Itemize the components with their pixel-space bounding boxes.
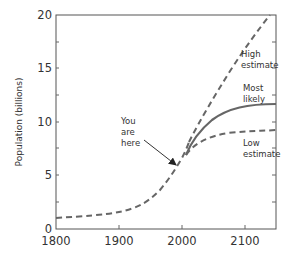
y-tick-5: 5: [45, 168, 52, 182]
svg-text:estimate: estimate: [243, 149, 280, 159]
x-tick-labels: 1800 1900 2000 2100: [41, 234, 259, 248]
population-chart: 0 5 10 15 20 1800 1900 2000 2100 Populat…: [0, 0, 290, 258]
y-axis-title: Population (billions): [14, 78, 24, 167]
annotation-low-estimate: Low estimate: [243, 138, 280, 159]
series-historical: [56, 142, 189, 218]
y-tick-10: 10: [37, 115, 52, 129]
svg-text:likely: likely: [243, 94, 265, 104]
series-most-likely: [186, 104, 276, 155]
arrow-icon: [144, 140, 176, 165]
y-tick-20: 20: [37, 8, 52, 22]
svg-text:Low: Low: [243, 138, 260, 148]
series-high-estimate: [189, 15, 270, 142]
annotation-you-are-here: You are here: [120, 116, 176, 165]
svg-text:You: You: [120, 116, 136, 126]
annotation-high-estimate: High estimate: [241, 49, 278, 70]
x-tick-1900: 1900: [104, 234, 133, 248]
y-tick-15: 15: [37, 61, 52, 75]
x-tick-2000: 2000: [167, 234, 196, 248]
annotation-most-likely: Most likely: [243, 83, 265, 104]
svg-text:are: are: [121, 127, 135, 137]
x-tick-1800: 1800: [41, 234, 70, 248]
svg-text:Most: Most: [243, 83, 264, 93]
x-axis-ticks: [119, 225, 245, 229]
plot-frame: [56, 15, 276, 229]
y-tick-labels: 0 5 10 15 20: [37, 8, 52, 236]
svg-text:estimate: estimate: [241, 60, 278, 70]
x-tick-2100: 2100: [230, 234, 259, 248]
svg-text:High: High: [241, 49, 261, 59]
svg-text:here: here: [121, 138, 140, 148]
